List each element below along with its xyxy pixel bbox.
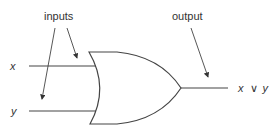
input-x-label: x [9,60,16,72]
inputs-label: inputs [44,10,74,22]
result-y: y [262,82,270,94]
or-gate-symbol [89,52,181,124]
result-x: x [237,82,244,94]
diagram-svg: inputs output x y x ∨ y [0,0,274,136]
inputs-arrow-to-x [67,28,77,58]
result-or-operator: ∨ [250,82,258,94]
inputs-arrow-to-y [42,28,55,99]
output-arrow [191,28,208,77]
input-y-label: y [10,105,18,117]
or-gate-diagram: inputs output x y x ∨ y [0,0,274,136]
output-label: output [172,10,203,22]
result-expression: x ∨ y [237,78,270,95]
